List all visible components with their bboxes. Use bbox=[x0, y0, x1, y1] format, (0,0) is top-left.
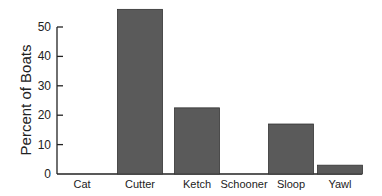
y-tick-label: 30 bbox=[38, 79, 52, 93]
category-label-cutter: Cutter bbox=[125, 178, 155, 190]
category-label-ketch: Ketch bbox=[183, 178, 211, 190]
y-axis-label: Percent of Boats bbox=[17, 45, 34, 156]
y-tick-label: 20 bbox=[38, 108, 52, 122]
y-tick-label: 40 bbox=[38, 49, 52, 63]
bar-chart: 01020304050Percent of BoatsCatCutterKetc… bbox=[0, 0, 382, 196]
category-label-yawl: Yawl bbox=[328, 178, 351, 190]
y-tick-label: 10 bbox=[38, 138, 52, 152]
y-tick-label: 50 bbox=[38, 20, 52, 34]
category-label-sloop: Sloop bbox=[277, 178, 305, 190]
chart-canvas: 01020304050Percent of BoatsCatCutterKetc… bbox=[0, 0, 382, 196]
y-tick-label: 0 bbox=[44, 167, 51, 181]
bar-cutter bbox=[118, 9, 163, 174]
bar-ketch bbox=[175, 108, 220, 174]
bar-sloop bbox=[269, 124, 314, 174]
category-label-schooner: Schooner bbox=[220, 178, 267, 190]
bar-yawl bbox=[318, 165, 363, 174]
category-label-cat: Cat bbox=[73, 178, 90, 190]
